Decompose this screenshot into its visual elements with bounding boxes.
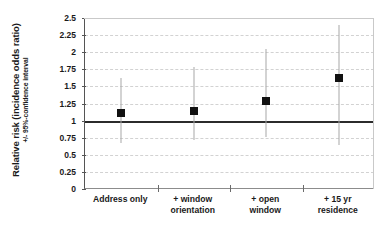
y-axis-title: Relative risk (incidence odds ratio) +/-… <box>0 0 40 200</box>
y-axis-tick <box>82 86 86 87</box>
gridline <box>85 69 374 70</box>
error-bar <box>266 49 267 137</box>
relative-risk-chart: Relative risk (incidence odds ratio) +/-… <box>0 0 383 232</box>
y-axis-tick-label: 2.25 <box>59 30 76 40</box>
gridline <box>85 104 374 105</box>
y-axis-tick-label: 1.5 <box>64 81 76 91</box>
y-axis-tick <box>82 155 86 156</box>
gridline <box>85 138 374 139</box>
x-axis-category-label: + windoworientation <box>171 194 215 215</box>
data-point-marker <box>190 107 198 115</box>
plot-right-border <box>373 18 374 189</box>
y-axis-tick <box>82 52 86 53</box>
x-axis-tick <box>230 185 231 192</box>
gridline <box>85 35 374 36</box>
x-axis-category-label: Address only <box>93 194 147 205</box>
y-axis-tick-label: 2.5 <box>64 13 76 23</box>
x-axis-category-label: + openwindow <box>249 194 281 215</box>
y-axis-tick-label: 0.75 <box>59 133 76 143</box>
data-point-marker <box>262 97 270 105</box>
gridline <box>85 52 374 53</box>
y-axis-tick-label: 0.5 <box>64 150 76 160</box>
x-axis-tick <box>158 185 159 192</box>
y-axis-tick <box>82 189 86 190</box>
y-axis-tick <box>82 35 86 36</box>
y-axis-tick-label: 1.25 <box>59 99 76 109</box>
y-axis-tick <box>82 138 86 139</box>
y-axis-tick-labels: 2.52.2521.751.51.2510.750.50.250 <box>40 18 80 189</box>
x-axis-category-label: + 15 yrresidence <box>318 194 358 215</box>
y-axis-tick-label: 1.75 <box>59 64 76 74</box>
y-axis-tick <box>82 69 86 70</box>
plot-top-border <box>84 18 374 19</box>
y-axis-tick <box>82 172 86 173</box>
reference-line <box>85 121 374 123</box>
gridline <box>85 86 374 87</box>
x-axis-tick <box>303 185 304 192</box>
plot-area <box>84 18 374 189</box>
gridline <box>85 172 374 173</box>
error-bar <box>338 25 339 145</box>
y-axis-tick-label: 0.25 <box>59 167 76 177</box>
data-point-marker <box>335 74 343 82</box>
y-axis-title-sub: +/- 95%-confidence interval <box>22 57 29 142</box>
gridline <box>85 155 374 156</box>
x-axis-category-labels: Address only+ windoworientation+ openwin… <box>84 194 374 232</box>
error-bar <box>193 67 194 140</box>
y-axis-title-main: Relative risk (incidence odds ratio) <box>11 23 21 177</box>
y-axis-tick <box>82 104 86 105</box>
y-axis-tick-label: 0 <box>71 184 76 194</box>
y-axis-tick-label: 1 <box>71 116 76 126</box>
data-point-marker <box>117 109 125 117</box>
y-axis-tick-label: 2 <box>71 47 76 57</box>
